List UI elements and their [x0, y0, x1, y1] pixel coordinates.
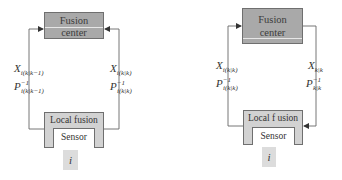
- fusion-center-label-line2: center: [45, 27, 103, 39]
- node-index-label: i: [262, 147, 276, 167]
- left-diagram-left-connector: [29, 29, 44, 129]
- right-channel-state-label: Xi(k|k): [110, 62, 131, 74]
- left-channel-state-label: Xi(k|k): [216, 59, 237, 71]
- right-channel-state-label: Xk|k: [308, 59, 323, 71]
- sensor-box: Sensor: [252, 127, 295, 145]
- left-channel-state-label: Xi(k|k−1): [14, 62, 44, 74]
- fusion-center-stripe: [243, 38, 302, 39]
- left-channel-cov-label: P−1i(k|k−1): [14, 80, 44, 92]
- fusion-center-box: Fusion center: [242, 8, 303, 44]
- right-channel-cov-label: P−1k|k: [306, 77, 321, 89]
- left-channel-cov-label: P−1i(k|k): [216, 77, 238, 89]
- fusion-center-label-line1: Fusion: [45, 15, 103, 27]
- fusion-center-label-line1: Fusion: [243, 14, 302, 26]
- sensor-box: Sensor: [53, 128, 95, 148]
- local-fusion-label: Local fusion: [45, 115, 103, 126]
- fusion-center-box: Fusion center: [44, 12, 104, 39]
- local-fusion-label: Local f usion: [244, 113, 302, 124]
- right-channel-cov-label: P−1i(k|k): [110, 80, 132, 92]
- node-index-label: i: [63, 150, 78, 170]
